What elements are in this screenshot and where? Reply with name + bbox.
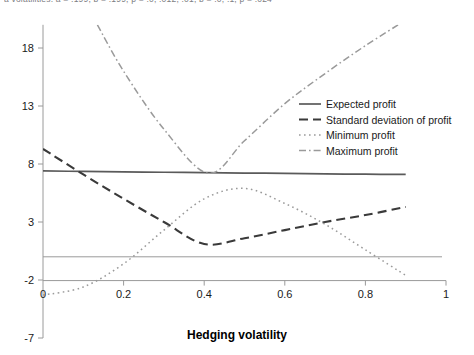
- x-tick-label: 0.6: [277, 288, 292, 300]
- x-axis-ticks: 00.20.40.60.81: [40, 281, 449, 300]
- x-tick-label: 0: [40, 288, 46, 300]
- x-axis-title: Hedging volatility: [187, 328, 287, 342]
- series-line: [43, 149, 406, 245]
- legend-item-label: Standard deviation of profit: [326, 114, 452, 126]
- y-tick-label: 3: [28, 216, 34, 228]
- clipped-top-caption: a volatilities: a = .199, b = .199, p = …: [4, 0, 474, 4]
- chart-figure: a volatilities: a = .199, b = .199, p = …: [0, 0, 474, 355]
- legend-item-label: Minimum profit: [326, 129, 395, 141]
- x-tick-label: 0.8: [358, 288, 373, 300]
- y-tick-label: -2: [24, 274, 34, 286]
- legend-item-label: Maximum profit: [326, 145, 398, 157]
- legend-item-label: Expected profit: [326, 98, 396, 110]
- x-tick-label: 0.4: [197, 288, 212, 300]
- series-lines: [43, 20, 406, 295]
- x-tick-label: 0.2: [116, 288, 131, 300]
- y-tick-label: 13: [22, 100, 34, 112]
- series-line: [43, 188, 406, 295]
- axes: [43, 25, 446, 338]
- chart-legend: Expected profitStandard deviation of pro…: [299, 98, 452, 157]
- profit-vs-hedging-volatility-chart: 00.20.40.60.81 181383-2-7 Expected profi…: [0, 0, 474, 355]
- x-tick-label: 1: [443, 288, 449, 300]
- y-tick-label: -7: [24, 332, 34, 344]
- y-tick-label: 18: [22, 42, 34, 54]
- y-tick-label: 8: [28, 158, 34, 170]
- series-line: [43, 171, 406, 174]
